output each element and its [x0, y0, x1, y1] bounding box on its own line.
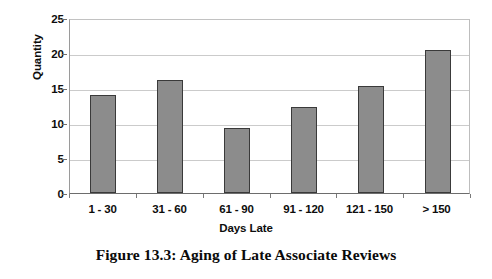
x-tick-label: 121 - 150: [336, 203, 403, 215]
x-tick-label: 1 - 30: [69, 203, 136, 215]
bar-series: [70, 20, 469, 193]
x-tick-label: 31 - 60: [136, 203, 203, 215]
y-tick-mark: [62, 89, 67, 90]
x-axis-title: Days Late: [0, 222, 492, 234]
x-tick-mark: [403, 194, 404, 198]
y-tick-label: 10: [42, 118, 64, 130]
y-tick-label: 0: [42, 188, 64, 200]
x-tick-mark: [136, 194, 137, 198]
x-tick-label: 91 - 120: [270, 203, 337, 215]
y-tick-label: 5: [42, 153, 64, 165]
plot-area: [69, 19, 470, 194]
y-axis-ticks: 0510152025: [38, 0, 64, 279]
bar: [291, 107, 317, 193]
bar: [224, 128, 250, 193]
x-tick-mark: [336, 194, 337, 198]
bar: [358, 86, 384, 193]
x-tick-label: 61 - 90: [203, 203, 270, 215]
y-tick-mark: [62, 159, 67, 160]
bar: [425, 50, 451, 193]
x-tick-mark: [470, 194, 471, 198]
y-tick-mark: [62, 124, 67, 125]
y-tick-mark: [62, 194, 67, 195]
y-tick-label: 25: [42, 13, 64, 25]
y-tick-mark: [62, 54, 67, 55]
x-tick-mark: [203, 194, 204, 198]
x-tick-mark: [69, 194, 70, 198]
y-tick-label: 15: [42, 83, 64, 95]
x-tick-label: > 150: [403, 203, 470, 215]
y-tick-mark: [62, 19, 67, 20]
bar: [90, 95, 116, 193]
figure-caption: Figure 13.3: Aging of Late Associate Rev…: [0, 246, 492, 264]
bar: [157, 80, 183, 193]
x-tick-mark: [270, 194, 271, 198]
x-axis-tick-labels: 1 - 3031 - 6061 - 9091 - 120121 - 150> 1…: [69, 203, 471, 219]
y-tick-label: 20: [42, 48, 64, 60]
x-axis-ticks: [69, 194, 471, 199]
figure-container: Quantity 0510152025 1 - 3031 - 6061 - 90…: [0, 0, 492, 279]
